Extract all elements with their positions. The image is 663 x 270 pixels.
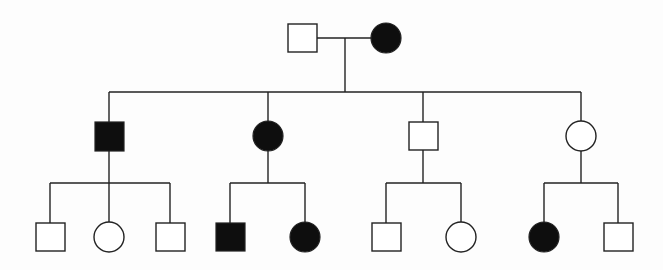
male-unaffected-III-3 <box>156 223 185 251</box>
male-unaffected-III-1 <box>36 223 65 251</box>
female-affected-III-5 <box>290 222 320 252</box>
female-affected-II-2 <box>253 121 283 151</box>
female-affected-I-2 <box>371 23 401 53</box>
male-affected-III-4 <box>216 223 245 251</box>
male-affected-II-1 <box>95 122 124 151</box>
connector-lines <box>50 38 618 223</box>
generation-2 <box>95 121 596 151</box>
female-unaffected-III-2 <box>94 222 124 252</box>
pedigree-canvas <box>0 0 663 270</box>
male-unaffected-III-9 <box>604 223 633 251</box>
male-unaffected-II-3 <box>409 122 438 150</box>
pedigree-diagram: pedigree-chart <box>0 0 663 270</box>
male-unaffected-I-1 <box>288 24 317 52</box>
generation-3 <box>36 222 633 252</box>
female-affected-III-8 <box>529 222 559 252</box>
male-unaffected-III-6 <box>372 223 401 251</box>
female-unaffected-III-7 <box>446 222 476 252</box>
female-unaffected-II-4 <box>566 121 596 151</box>
